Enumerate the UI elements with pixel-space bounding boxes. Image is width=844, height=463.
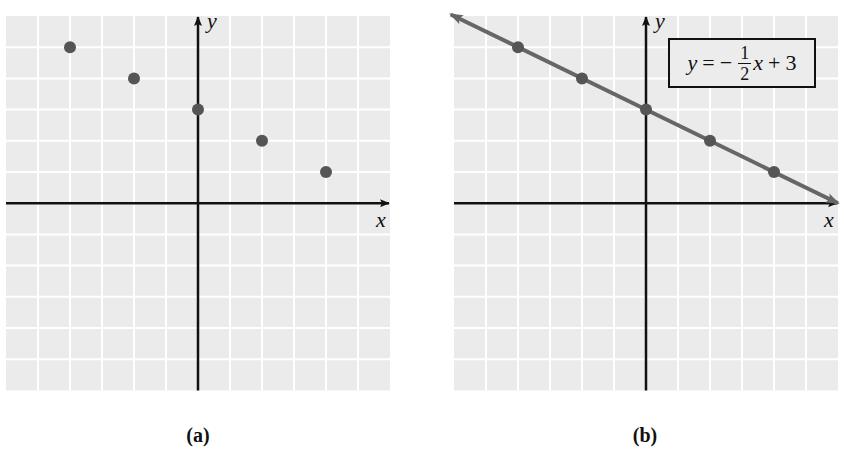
- x-axis-label: x: [823, 207, 834, 232]
- fraction-denominator: 2: [740, 64, 749, 83]
- y-axis-label: y: [653, 8, 665, 33]
- data-point: [640, 104, 652, 116]
- caption-a: (a): [168, 424, 228, 447]
- equation-box: y = − 1 2 x + 3: [668, 38, 816, 88]
- equation-equals: =: [702, 50, 714, 76]
- data-point: [768, 166, 780, 178]
- caption-b: (b): [615, 424, 675, 447]
- equation-const: 3: [785, 50, 796, 76]
- equation-lhs: y: [688, 50, 698, 76]
- equation-var: x: [753, 50, 763, 76]
- equation-plus: +: [768, 50, 780, 76]
- data-point: [704, 135, 716, 147]
- equation-minus: −: [720, 50, 732, 76]
- data-point: [512, 41, 524, 53]
- equation-fraction: 1 2: [738, 44, 751, 83]
- fraction-numerator: 1: [738, 44, 751, 64]
- data-point: [576, 72, 588, 84]
